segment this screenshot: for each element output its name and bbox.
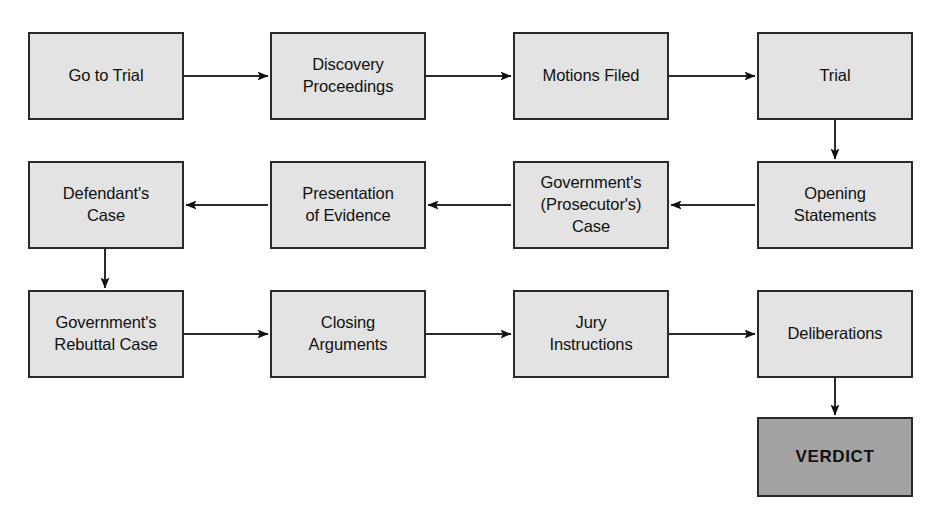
node-label-defendants-case: Defendant's Case [59,183,153,227]
node-discovery[interactable]: Discovery Proceedings [270,32,426,120]
node-label-trial: Trial [816,65,855,87]
node-label-presentation: Presentation of Evidence [298,183,397,227]
node-label-jury-instructions: Jury Instructions [545,312,636,356]
node-label-verdict: VERDICT [792,446,879,468]
node-deliberations[interactable]: Deliberations [757,290,913,378]
node-jury-instructions[interactable]: Jury Instructions [513,290,669,378]
node-label-deliberations: Deliberations [783,323,886,345]
node-trial[interactable]: Trial [757,32,913,120]
node-label-opening-statements: Opening Statements [790,183,880,227]
flowchart-canvas: Go to TrialDiscovery ProceedingsMotions … [0,0,940,521]
node-go-to-trial[interactable]: Go to Trial [28,32,184,120]
node-defendants-case[interactable]: Defendant's Case [28,161,184,249]
node-governments-case[interactable]: Government's (Prosecutor's) Case [513,161,669,249]
node-verdict[interactable]: VERDICT [757,417,913,497]
edges-group [105,76,835,415]
node-label-go-to-trial: Go to Trial [64,65,147,87]
node-presentation[interactable]: Presentation of Evidence [270,161,426,249]
node-label-governments-case: Government's (Prosecutor's) Case [537,172,646,237]
node-label-discovery: Discovery Proceedings [299,54,398,98]
node-label-closing-arguments: Closing Arguments [305,312,392,356]
node-motions-filed[interactable]: Motions Filed [513,32,669,120]
node-rebuttal-case[interactable]: Government's Rebuttal Case [28,290,184,378]
node-label-rebuttal-case: Government's Rebuttal Case [50,312,161,356]
node-closing-arguments[interactable]: Closing Arguments [270,290,426,378]
node-opening-statements[interactable]: Opening Statements [757,161,913,249]
node-label-motions-filed: Motions Filed [539,65,644,87]
